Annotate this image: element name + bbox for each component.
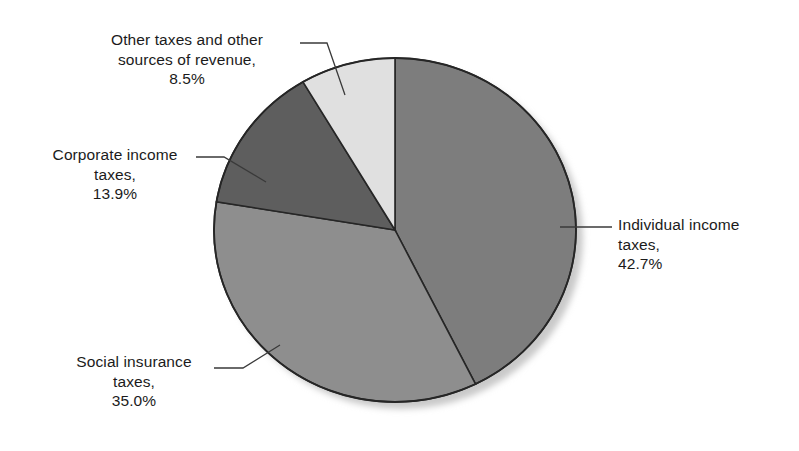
- pie-label-other-taxes: Other taxes and other sources of revenue…: [72, 30, 302, 89]
- pie-label-individual-income-taxes: Individual income taxes, 42.7%: [618, 215, 798, 274]
- pie-chart-figure: Other taxes and other sources of revenue…: [0, 0, 799, 451]
- pie-label-social-insurance-taxes: Social insurance taxes, 35.0%: [36, 352, 232, 411]
- pie-label-corporate-income-taxes: Corporate income taxes, 13.9%: [16, 145, 214, 204]
